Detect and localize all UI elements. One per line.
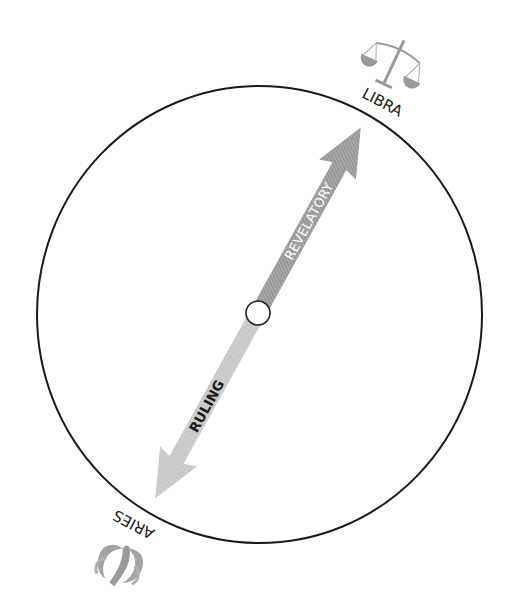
- axis-arrows: REVELATORY RULING: [137, 117, 379, 508]
- revelatory-label: REVELATORY: [281, 180, 336, 263]
- aries-ram-icon: [91, 538, 148, 594]
- aries-label: ARIES: [110, 506, 157, 543]
- ruling-label: RULING: [186, 377, 228, 435]
- zodiac-axis-diagram: REVELATORY RULING LIBRA ARIES: [0, 0, 510, 613]
- libra-label: LIBRA: [359, 85, 406, 121]
